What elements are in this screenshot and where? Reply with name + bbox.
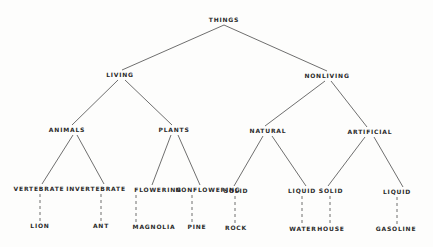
tree-branch-line	[72, 80, 118, 125]
node-rock: ROCK	[225, 225, 247, 231]
node-natural: NATURAL	[250, 128, 287, 134]
node-invertebrate: INVERTEBRATE	[66, 186, 126, 192]
node-living: LIVING	[106, 72, 134, 78]
node-artificial: ARTIFICIAL	[348, 129, 393, 135]
node-ant: ANT	[93, 223, 109, 229]
tree-branch-line	[328, 137, 365, 186]
tree-branch-line	[234, 136, 263, 186]
node-natural-liquid: LIQUID	[288, 188, 316, 194]
tree-edges	[0, 0, 433, 247]
node-animals: ANIMALS	[49, 127, 85, 133]
taxonomy-tree-diagram: THINGSLIVINGNONLIVINGANIMALSPLANTSNATURA…	[0, 0, 433, 247]
node-artificial-liquid: LIQUID	[383, 189, 411, 195]
node-artificial-solid: SOLID	[319, 188, 343, 194]
tree-branch-line	[374, 137, 403, 187]
node-nonliving: NONLIVING	[304, 73, 349, 79]
node-magnolia: MAGNOLIA	[133, 224, 176, 230]
tree-branch-line	[122, 25, 224, 70]
tree-branch-line	[152, 135, 171, 185]
node-gasoline: GASOLINE	[376, 226, 417, 232]
tree-branch-line	[125, 80, 172, 125]
node-natural-solid: SOLID	[224, 188, 248, 194]
node-house: HOUSE	[317, 226, 344, 232]
node-things: THINGS	[209, 17, 239, 23]
node-pine: PINE	[188, 224, 207, 230]
node-plants: PLANTS	[158, 127, 189, 133]
tree-branch-line	[42, 135, 73, 184]
tree-branch-line	[178, 135, 200, 185]
tree-branch-line	[265, 81, 325, 126]
node-lion: LION	[30, 223, 49, 229]
tree-branch-line	[224, 25, 327, 71]
node-water: WATER	[289, 226, 316, 232]
node-vertebrate: VERTEBRATE	[14, 186, 65, 192]
tree-branch-line	[77, 135, 104, 184]
tree-branch-line	[272, 136, 306, 186]
tree-branch-line	[331, 81, 367, 127]
